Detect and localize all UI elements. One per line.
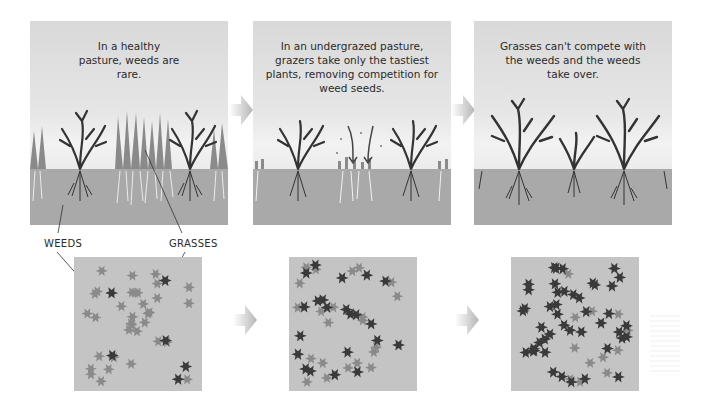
top-view-undergrazed (289, 257, 417, 391)
weed-plant-icon (492, 99, 659, 169)
panel-weed-takeover: Grasses can't compete with the weeds and… (474, 21, 672, 225)
label-grasses: GRASSES (169, 238, 218, 249)
panel-caption: In a healthy pasture, weeds are rare. (38, 39, 220, 81)
grass-roots (256, 171, 441, 203)
scan-artifact (650, 315, 680, 375)
label-weeds: WEEDS (44, 238, 82, 249)
top-view-takeover (511, 257, 639, 391)
arrow-right-icon (455, 305, 479, 335)
weed-seeds (336, 132, 382, 154)
panel-caption: Grasses can't compete with the weeds and… (482, 39, 664, 81)
panel-healthy-pasture: In a healthy pasture, weeds are rare. (30, 21, 228, 225)
arrow-down-icon (348, 126, 373, 163)
panel-caption: In an undergrazed pasture, grazers take … (261, 39, 443, 95)
arrow-right-icon (229, 95, 253, 125)
weed-roots (479, 171, 667, 205)
weed-plant-icon (278, 121, 437, 169)
grazed-grass-stubs (255, 157, 448, 169)
panel-undergrazed-pasture: In an undergrazed pasture, grazers take … (253, 21, 451, 225)
arrow-right-icon (233, 305, 257, 335)
weed-roots (290, 171, 419, 201)
top-view-healthy (74, 257, 202, 391)
weed-roots (68, 171, 202, 201)
arrow-right-icon (451, 95, 475, 125)
